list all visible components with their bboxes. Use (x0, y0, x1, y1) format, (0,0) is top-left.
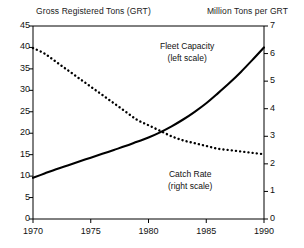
x-tick-label: 1985 (186, 226, 226, 236)
right-axis-ticks (264, 26, 268, 219)
right-tick-label: 5 (270, 75, 275, 85)
x-tick-label: 1975 (71, 226, 111, 236)
annotation-fleet-capacity: Fleet Capacity (left scale) (160, 40, 214, 64)
right-tick-label: 1 (270, 185, 275, 195)
left-tick-label: 40 (20, 41, 30, 51)
left-tick-label: 5 (25, 192, 30, 202)
left-tick-label: 20 (20, 127, 30, 137)
annotation-catch-rate: Catch Rate (right scale) (168, 168, 212, 192)
chart-container: Gross Registered Tons (GRT) Million Tons… (0, 0, 304, 248)
annotation-fleet-capacity-line2: (left scale) (160, 52, 214, 64)
left-tick-label: 35 (20, 63, 30, 73)
x-tick-label: 1970 (13, 226, 53, 236)
plot-area (0, 0, 304, 248)
right-tick-label: 2 (270, 158, 275, 168)
left-tick-label: 0 (25, 213, 30, 223)
left-tick-label: 10 (20, 170, 30, 180)
annotation-fleet-capacity-line1: Fleet Capacity (160, 40, 214, 52)
right-tick-label: 4 (270, 103, 275, 113)
left-tick-label: 30 (20, 84, 30, 94)
left-tick-label: 25 (20, 106, 30, 116)
x-tick-label: 1980 (129, 226, 169, 236)
right-tick-label: 0 (270, 213, 275, 223)
x-tick-label: 1990 (244, 226, 284, 236)
x-axis-ticks (33, 219, 264, 223)
annotation-catch-rate-line2: (right scale) (168, 180, 212, 192)
right-tick-label: 6 (270, 48, 275, 58)
annotation-catch-rate-line1: Catch Rate (168, 168, 212, 180)
right-tick-label: 3 (270, 130, 275, 140)
series-line-fleet-capacity (33, 47, 264, 177)
left-axis-ticks (29, 26, 33, 219)
right-tick-label: 7 (270, 20, 275, 30)
left-tick-label: 45 (20, 20, 30, 30)
left-tick-label: 15 (20, 149, 30, 159)
plot-frame (33, 26, 264, 219)
